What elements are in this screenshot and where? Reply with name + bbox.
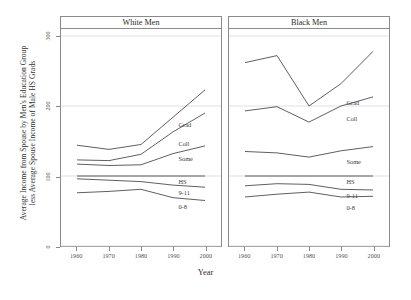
y-axis-title-line-1: Average Income from Spouse by Men's Educ…: [19, 13, 28, 253]
x-tick-mark-black-1990: [341, 247, 342, 251]
x-tick-label-black-1970: 1970: [264, 252, 290, 259]
series-line-white-men-coll: [77, 113, 205, 161]
x-tick-mark-black-2000: [374, 247, 375, 251]
series-label-white-men-some: Some: [178, 155, 193, 162]
x-tick-mark-white-1970: [109, 247, 110, 251]
x-axis-title: Year: [0, 268, 411, 277]
x-tick-mark-black-1980: [309, 247, 310, 251]
x-tick-label-white-1960: 1960: [63, 252, 89, 259]
series-label-black-men-hs: HS: [346, 178, 354, 185]
plot-lines-black-men: [229, 29, 389, 246]
x-tick-label-white-1990: 1990: [160, 252, 186, 259]
series-label-black-men-0-8: 0-8: [346, 204, 355, 211]
y-tick-label-300: 300: [45, 25, 53, 47]
x-tick-label-white-1980: 1980: [128, 252, 154, 259]
y-tick-mark-0: [56, 247, 60, 248]
x-tick-label-black-2000: 2000: [361, 252, 387, 259]
x-tick-mark-white-2000: [206, 247, 207, 251]
x-tick-label-white-1970: 1970: [96, 252, 122, 259]
plot-area-black-men: GradCollSomeHS9-110-8: [228, 29, 390, 247]
series-line-black-men-grad: [245, 51, 373, 106]
facet-title-white-men: White Men: [122, 18, 159, 27]
facet-panel-black-men: Black Men GradCollSomeHS9-110-8: [228, 16, 390, 247]
series-label-black-men-coll: Coll: [346, 115, 357, 122]
x-tick-mark-black-1960: [244, 247, 245, 251]
x-tick-label-black-1990: 1990: [328, 252, 354, 259]
series-label-black-men-grad: Grad: [346, 99, 359, 106]
series-label-white-men-coll: Coll: [178, 140, 189, 147]
plot-area-white-men: GradCollSomeHS9-110-8: [60, 29, 222, 247]
x-tick-label-black-1980: 1980: [296, 252, 322, 259]
x-tick-mark-white-1980: [141, 247, 142, 251]
series-line-black-men-some: [245, 147, 373, 158]
series-label-white-men-9-11: 9-11: [178, 189, 189, 196]
x-tick-mark-white-1990: [173, 247, 174, 251]
y-tick-label-100: 100: [45, 166, 53, 188]
x-tick-mark-white-1960: [76, 247, 77, 251]
series-label-black-men-some: Some: [346, 158, 361, 165]
series-label-black-men-9-11: 9-11: [346, 192, 357, 199]
series-label-white-men-grad: Grad: [178, 121, 191, 128]
x-tick-mark-black-1970: [277, 247, 278, 251]
facet-strip-black-men: Black Men: [228, 16, 390, 29]
chart-figure: Average Income from Spouse by Men's Educ…: [0, 0, 411, 300]
plot-lines-white-men: [61, 29, 221, 246]
series-label-white-men-hs: HS: [178, 178, 186, 185]
y-tick-label-0: 0: [45, 236, 53, 258]
facet-panel-white-men: White Men GradCollSomeHS9-110-8: [60, 16, 222, 247]
y-tick-label-200: 200: [45, 95, 53, 117]
y-axis-title: Average Income from Spouse by Men's Educ…: [19, 13, 45, 253]
x-tick-label-white-2000: 2000: [193, 252, 219, 259]
y-axis-title-line-2: less Average Spouse Income of Male HS Gr…: [28, 13, 37, 253]
facet-strip-white-men: White Men: [60, 16, 222, 29]
series-label-white-men-0-8: 0-8: [178, 203, 187, 210]
facet-title-black-men: Black Men: [291, 18, 327, 27]
x-tick-label-black-1960: 1960: [231, 252, 257, 259]
